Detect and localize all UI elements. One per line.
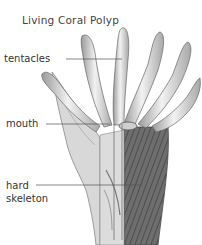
label-tentacles: tentacles bbox=[4, 53, 50, 65]
label-hard-skeleton-line1: hard bbox=[6, 180, 29, 192]
label-mouth: mouth bbox=[6, 118, 38, 130]
hard-skeleton-shape bbox=[100, 127, 168, 245]
label-hard-skeleton-line2: skeleton bbox=[6, 193, 48, 205]
